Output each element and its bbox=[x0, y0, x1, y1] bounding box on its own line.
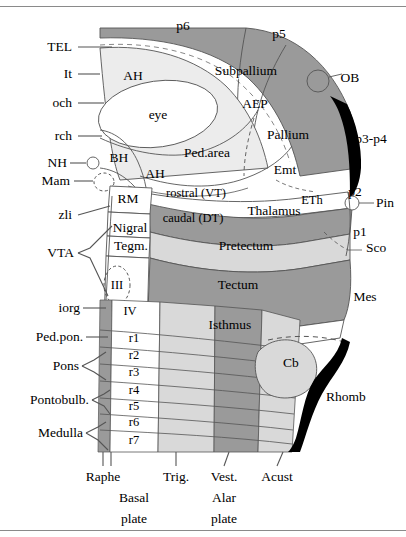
label-AH-upper: AH bbox=[123, 69, 143, 83]
label-RM: RM bbox=[117, 192, 138, 206]
label-Pontobulb: Pontobulb. bbox=[30, 393, 89, 407]
label-Thalamus: Thalamus bbox=[247, 204, 300, 218]
label-p6: p6 bbox=[176, 19, 190, 33]
label-Cb: Cb bbox=[283, 356, 299, 370]
label-r5: r5 bbox=[129, 400, 139, 413]
label-AH-lower: AH bbox=[145, 167, 165, 181]
figure-canvas: TEL It och rch NH Mam zli VTA iorg Ped.p… bbox=[0, 0, 406, 537]
label-Pons: Pons bbox=[53, 359, 79, 373]
label-Nigral: Nigral bbox=[113, 221, 148, 235]
label-Mes: Mes bbox=[353, 290, 376, 304]
label-Acust: Acust bbox=[261, 470, 293, 484]
label-It: It bbox=[64, 67, 72, 81]
label-p2: p2 bbox=[348, 185, 362, 199]
label-rch: rch bbox=[55, 129, 72, 143]
label-Trig: Trig. bbox=[163, 470, 189, 484]
label-basal-plate-line1: Basal bbox=[119, 491, 149, 505]
label-Pallium: Pallium bbox=[267, 128, 309, 142]
label-Isthmus: Isthmus bbox=[209, 318, 252, 332]
label-IV: IV bbox=[123, 305, 136, 318]
bottom-ticks bbox=[103, 452, 283, 466]
label-ETh: ETh bbox=[301, 194, 323, 207]
label-Mam: Mam bbox=[42, 174, 71, 188]
label-TEL: TEL bbox=[47, 40, 72, 54]
label-Tectum: Tectum bbox=[218, 278, 258, 292]
label-AEP: AEP bbox=[242, 97, 268, 111]
label-Pin: Pin bbox=[376, 196, 394, 210]
label-NH: NH bbox=[48, 156, 68, 170]
label-r3: r3 bbox=[129, 366, 139, 379]
label-r2: r2 bbox=[129, 349, 139, 362]
label-BH: BH bbox=[110, 151, 129, 165]
label-Tegm: Tegm. bbox=[114, 239, 148, 253]
label-rostral-VT: rostral (VT) bbox=[166, 187, 226, 200]
label-Pretectum: Pretectum bbox=[219, 239, 274, 253]
label-Emt: Emt bbox=[274, 163, 297, 177]
label-Rhomb: Rhomb bbox=[326, 390, 366, 404]
label-r4: r4 bbox=[129, 384, 139, 397]
label-alar-plate-line2: plate bbox=[211, 512, 237, 526]
label-caudal-DT: caudal (DT) bbox=[163, 212, 224, 225]
label-iorg: iorg bbox=[58, 301, 80, 315]
label-r1: r1 bbox=[129, 332, 139, 345]
label-r7: r7 bbox=[129, 434, 139, 447]
nh-circle bbox=[87, 157, 99, 169]
label-VTA: VTA bbox=[47, 246, 74, 260]
label-p5: p5 bbox=[272, 27, 286, 41]
label-Medulla: Medulla bbox=[38, 426, 83, 440]
label-p3-p4: p3-p4 bbox=[355, 132, 387, 146]
label-alar-plate-line1: Alar bbox=[212, 491, 236, 505]
label-OB: OB bbox=[341, 71, 360, 85]
emt-dashed bbox=[276, 180, 316, 192]
label-ped-pon: Ped.pon. bbox=[36, 330, 83, 344]
trigeminal-column bbox=[158, 302, 215, 452]
label-Subpallium: Subpallium bbox=[215, 64, 277, 78]
label-basal-plate-line2: plate bbox=[121, 512, 147, 526]
label-p1: p1 bbox=[353, 225, 367, 239]
label-Raphe: Raphe bbox=[86, 470, 121, 484]
label-Ped-area: Ped.area bbox=[184, 146, 230, 160]
label-r6: r6 bbox=[129, 416, 139, 429]
label-zli: zli bbox=[59, 208, 73, 222]
label-Sco: Sco bbox=[366, 241, 386, 255]
label-eye: eye bbox=[149, 108, 168, 122]
label-Vest: Vest. bbox=[211, 470, 238, 484]
label-och: och bbox=[53, 96, 73, 110]
label-III: III bbox=[111, 279, 124, 292]
